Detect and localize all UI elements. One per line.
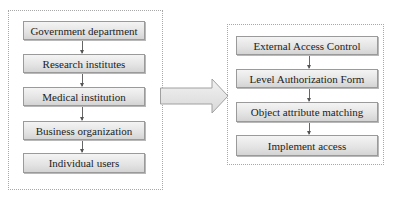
node-label: Individual users — [49, 157, 120, 169]
node-medical-institution: Medical institution — [23, 87, 145, 106]
node-external-access-control: External Access Control — [236, 36, 378, 55]
node-business-organization: Business organization — [23, 121, 145, 140]
connector-arrow-icon — [82, 107, 83, 120]
node-label: Implement access — [268, 140, 347, 152]
node-level-authorization-form: Level Authorization Form — [236, 69, 378, 88]
node-label: Medical institution — [42, 91, 125, 103]
node-implement-access: Implement access — [236, 135, 378, 156]
connector-arrow-icon — [309, 89, 310, 101]
connector-arrow-icon — [82, 41, 83, 53]
connector-arrow-icon — [82, 141, 83, 152]
node-label: Government department — [30, 25, 137, 37]
node-label: External Access Control — [254, 40, 361, 52]
node-government-department: Government department — [23, 21, 145, 40]
node-label: Level Authorization Form — [250, 73, 365, 85]
node-object-attribute-matching: Object attribute matching — [236, 102, 378, 122]
node-research-institutes: Research institutes — [23, 54, 145, 73]
connector-arrow-icon — [82, 74, 83, 86]
node-label: Research institutes — [43, 58, 126, 70]
block-arrow-right-icon — [160, 78, 230, 114]
connector-arrow-icon — [309, 56, 310, 68]
connector-arrow-icon — [309, 123, 310, 134]
node-individual-users: Individual users — [23, 153, 145, 173]
node-label: Business organization — [36, 125, 133, 137]
node-label: Object attribute matching — [251, 106, 363, 118]
